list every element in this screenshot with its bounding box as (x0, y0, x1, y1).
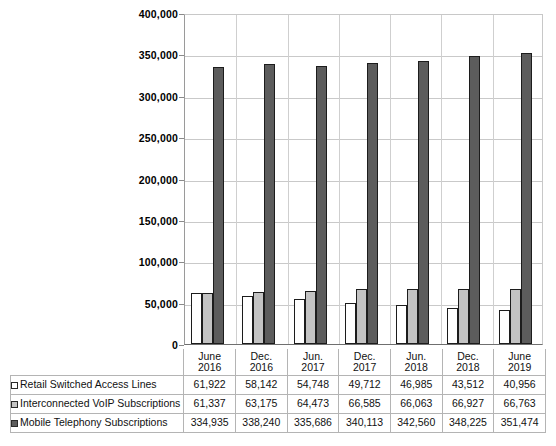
data-table: June2016Dec.2016Jun.2017Dec.2017Jun.2018… (10, 349, 546, 433)
bar-group (390, 15, 441, 344)
legend-swatch-icon (11, 401, 18, 408)
y-axis-tick-label: 350,000 (58, 50, 178, 61)
column-header-line: 2018 (443, 362, 494, 373)
table-cell: 63,175 (235, 395, 287, 414)
table-header-row: June2016Dec.2016Jun.2017Dec.2017Jun.2018… (11, 349, 546, 376)
table-cell: 348,225 (442, 414, 494, 433)
y-axis-tick-mark (179, 221, 184, 222)
table-row: Retail Switched Access Lines61,92258,142… (11, 376, 546, 395)
bar (447, 308, 458, 344)
y-axis-tick-label: 150,000 (58, 216, 178, 227)
table-cell: 351,474 (494, 414, 546, 433)
bar (356, 289, 367, 344)
bar-chart: 050,000100,000150,000200,000250,000300,0… (0, 0, 556, 350)
bar-group (493, 15, 544, 344)
column-header-1: Dec.2016 (235, 349, 287, 376)
table-cell: 335,686 (287, 414, 339, 433)
y-axis-tick-label: 50,000 (58, 298, 178, 309)
y-axis-tick-mark (179, 345, 184, 346)
bar (316, 66, 327, 344)
bar (202, 293, 213, 344)
y-axis-tick-mark (179, 55, 184, 56)
y-axis-tick-label: 100,000 (58, 257, 178, 268)
bar (305, 291, 316, 344)
y-axis-tick-label: 250,000 (58, 133, 178, 144)
y-axis-tick-mark (179, 97, 184, 98)
table-row: Interconnected VoIP Subscriptions61,3376… (11, 395, 546, 414)
plot-area (184, 14, 543, 345)
table-cell: 54,748 (287, 376, 339, 395)
bar-group (236, 15, 287, 344)
y-axis-tick-mark (179, 138, 184, 139)
y-axis-tick-mark (179, 262, 184, 263)
y-axis-tick-mark (179, 304, 184, 305)
bar (345, 303, 356, 344)
bar (264, 64, 275, 344)
bar-group (339, 15, 390, 344)
legend-item-1: Interconnected VoIP Subscriptions (11, 395, 184, 414)
table-cell: 342,560 (390, 414, 442, 433)
column-header-line: 2019 (494, 362, 545, 373)
table-cell: 43,512 (442, 376, 494, 395)
bar (499, 310, 510, 344)
table-cell: 334,935 (184, 414, 236, 433)
bar (213, 67, 224, 344)
table-cell: 40,956 (494, 376, 546, 395)
y-axis-tick-label: 400,000 (58, 9, 178, 20)
bar (294, 299, 305, 344)
legend-swatch-icon (11, 382, 18, 389)
legend-label: Mobile Telephony Subscriptions (20, 416, 167, 428)
table-cell: 58,142 (235, 376, 287, 395)
table-cell: 61,922 (184, 376, 236, 395)
bar (510, 289, 521, 344)
column-header-6: June2019 (494, 349, 546, 376)
column-header-2: Jun.2017 (287, 349, 339, 376)
legend-item-0: Retail Switched Access Lines (11, 376, 184, 395)
column-header-line: 2018 (391, 362, 442, 373)
bar-group (441, 15, 492, 344)
bar (469, 56, 480, 344)
bar-group (288, 15, 339, 344)
bar (418, 61, 429, 344)
column-header-line: 2017 (288, 362, 339, 373)
y-axis-tick-label: 300,000 (58, 92, 178, 103)
bar (191, 293, 202, 344)
table-cell: 46,985 (390, 376, 442, 395)
column-header-5: Dec.2018 (442, 349, 494, 376)
table-row: Mobile Telephony Subscriptions334,935338… (11, 414, 546, 433)
table-cell: 338,240 (235, 414, 287, 433)
bar-group (185, 15, 236, 344)
legend-label: Retail Switched Access Lines (20, 378, 157, 390)
bar (407, 289, 418, 344)
table-cell: 64,473 (287, 395, 339, 414)
y-axis-tick-label: 200,000 (58, 174, 178, 185)
bar (253, 292, 264, 344)
column-header-0: June2016 (184, 349, 236, 376)
table-cell: 340,113 (339, 414, 391, 433)
column-header-line: 2016 (236, 362, 287, 373)
column-header-line: 2017 (339, 362, 390, 373)
table-cell: 66,585 (339, 395, 391, 414)
bar (458, 289, 469, 344)
table-cell: 49,712 (339, 376, 391, 395)
y-axis-tick-mark (179, 180, 184, 181)
bar (367, 63, 378, 344)
table-cell: 61,337 (184, 395, 236, 414)
bar (521, 53, 532, 344)
legend-swatch-icon (11, 420, 18, 427)
table-header-corner (11, 349, 184, 376)
table-cell: 66,927 (442, 395, 494, 414)
column-header-4: Jun.2018 (390, 349, 442, 376)
bar (242, 296, 253, 344)
column-header-line: 2016 (184, 362, 235, 373)
legend-item-2: Mobile Telephony Subscriptions (11, 414, 184, 433)
legend-label: Interconnected VoIP Subscriptions (20, 397, 180, 409)
table-cell: 66,063 (390, 395, 442, 414)
y-axis-tick-mark (179, 14, 184, 15)
table-cell: 66,763 (494, 395, 546, 414)
bar (396, 305, 407, 344)
column-header-3: Dec.2017 (339, 349, 391, 376)
